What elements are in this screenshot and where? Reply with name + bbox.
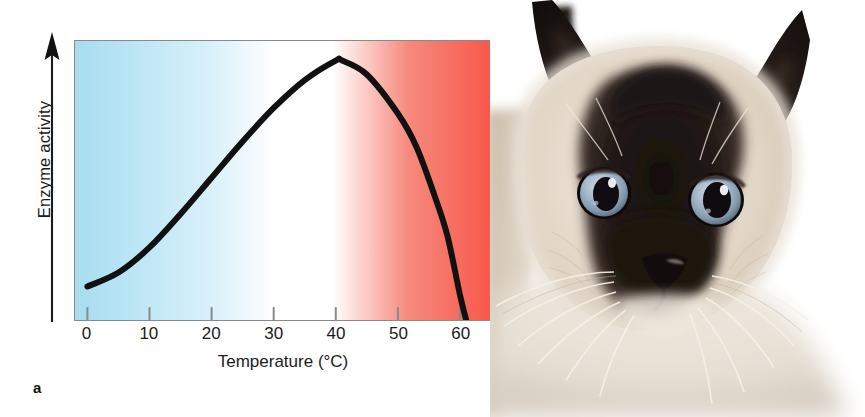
cat-right-eye	[688, 173, 744, 227]
x-tick-label-0: 0	[82, 324, 91, 344]
siamese-cat-image	[490, 0, 865, 417]
x-tick-label-30: 30	[264, 324, 283, 344]
panel-letter-a: a	[33, 379, 41, 396]
enzyme-activity-curve	[87, 58, 466, 320]
cat-left-eye	[577, 167, 631, 219]
x-tick-label-10: 10	[139, 324, 158, 344]
x-axis-tick-marks	[87, 307, 460, 320]
chart-curve-svg	[75, 41, 491, 320]
x-tick-label-20: 20	[202, 324, 221, 344]
x-tick-label-50: 50	[389, 324, 408, 344]
panel-b-siamese-cat-photo: b	[490, 0, 865, 417]
x-axis-title: Temperature (°C)	[74, 352, 492, 372]
figure: Enzyme activity 0102030405060 Temperatur…	[0, 0, 865, 417]
x-axis-tick-labels: 0102030405060	[74, 324, 492, 348]
panel-a-enzyme-activity-chart: Enzyme activity 0102030405060 Temperatur…	[0, 0, 500, 417]
chart-plot-area	[74, 40, 492, 321]
x-tick-label-40: 40	[327, 324, 346, 344]
y-axis-title: Enzyme activity	[35, 30, 54, 290]
x-tick-label-60: 60	[451, 324, 470, 344]
